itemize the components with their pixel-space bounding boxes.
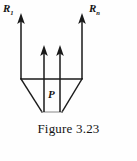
force-label-rn: Rn [89,3,100,17]
force-label-r1: R1 [3,3,14,17]
funnel-right-slope [62,79,82,112]
figure-caption: Figure 3.23 [0,121,137,137]
force-arrow-rn [78,13,86,79]
funnel-left-slope [21,79,42,112]
force-label-rn-subscript: n [96,9,100,16]
figure-container: R1 Rn P Figure 3.23 [0,0,137,161]
force-arrow-r1 [17,13,25,79]
load-label-p: P [48,89,55,100]
force-label-r1-subscript: 1 [10,9,13,16]
